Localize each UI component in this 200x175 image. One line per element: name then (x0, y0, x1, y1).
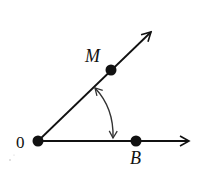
vertex-point-o (33, 136, 44, 147)
angle-arc (95, 88, 113, 138)
point-m-label: M (84, 46, 101, 66)
point-m (106, 65, 117, 76)
vertex-label: 0 (16, 133, 25, 152)
scan-speck (13, 154, 14, 155)
angle-diagram: 0 M B (0, 0, 200, 175)
point-b-label: B (130, 148, 141, 168)
scan-speck (9, 159, 11, 161)
point-b (131, 136, 142, 147)
